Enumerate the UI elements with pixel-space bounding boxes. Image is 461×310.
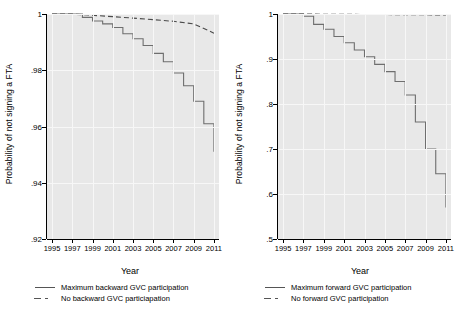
y-tick-0p8 [273, 104, 277, 105]
x-tick-2007 [405, 239, 406, 243]
x-tick-2005 [385, 239, 386, 243]
plot-area-left: .92.94.96.981199519971999200120032005200… [47, 14, 219, 239]
legend-item-dashed-left: No backward GVC particiapation [34, 293, 189, 304]
x-tick-label-1997: 1997 [64, 244, 81, 253]
legend-item-solid-left: Maximum backward GVC participation [34, 282, 189, 293]
y-tick-label-1: 1 [38, 10, 42, 19]
gridline-horizontal-1 [47, 14, 219, 15]
legend-label-dashed-left: No backward GVC particiapation [61, 293, 170, 304]
y-tick-label-0p92: .92 [31, 235, 42, 244]
x-tick-label-2011: 2011 [206, 244, 222, 253]
gridline-horizontal-0p94 [47, 183, 219, 184]
y-axis-line [277, 14, 278, 239]
y-tick-0p96 [42, 127, 46, 128]
legend-label-solid-right: Maximum forward GVC participation [291, 282, 411, 293]
legend-key-solid-icon [264, 284, 286, 291]
figure-two-panel-survival-chart: Probability of not signing a FTA .92.94.… [0, 0, 461, 310]
legend-item-dashed-right: No forward GVC participation [264, 293, 411, 304]
x-tick-label-2003: 2003 [125, 244, 142, 253]
gridline-horizontal-0p8 [278, 104, 451, 105]
x-tick-label-1999: 1999 [315, 244, 332, 253]
gridline-horizontal-0p6 [278, 194, 451, 195]
legend-right: Maximum forward GVC participation No for… [264, 282, 411, 304]
y-tick-0p94 [42, 183, 46, 184]
gridline-vertical-1997 [303, 14, 304, 239]
y-tick-label-0p98: .98 [31, 66, 42, 75]
x-tick-2003 [133, 239, 134, 243]
x-tick-2001 [344, 239, 345, 243]
x-tick-label-1997: 1997 [295, 244, 312, 253]
x-tick-label-2009: 2009 [417, 244, 434, 253]
y-tick-0p6 [273, 194, 277, 195]
x-tick-2009 [194, 239, 195, 243]
legend-left: Maximum backward GVC participation No ba… [34, 282, 189, 304]
legend-key-dashed-icon [264, 295, 286, 302]
x-tick-label-2003: 2003 [356, 244, 373, 253]
y-tick-label-0p96: .96 [31, 122, 42, 131]
y-tick-0p5 [273, 239, 277, 240]
x-tick-label-2011: 2011 [438, 244, 454, 253]
x-tick-2007 [173, 239, 174, 243]
x-tick-label-1995: 1995 [44, 244, 61, 253]
legend-key-dashed-icon [34, 295, 56, 302]
y-tick-label-0p6: .6 [266, 190, 273, 199]
panel-forward-gvc: Probability of not signing a FTA .5.6.7.… [230, 0, 461, 310]
x-tick-label-2009: 2009 [185, 244, 202, 253]
y-tick-1 [273, 14, 277, 15]
x-tick-1999 [324, 239, 325, 243]
y-axis-line [46, 14, 47, 239]
y-tick-label-0p94: .94 [31, 178, 42, 187]
y-tick-label-1: 1 [269, 10, 273, 19]
x-tick-2011 [214, 239, 215, 243]
gridline-vertical-2001 [344, 14, 345, 239]
gridline-horizontal-0p9 [278, 59, 451, 60]
x-tick-1997 [303, 239, 304, 243]
x-tick-label-2007: 2007 [165, 244, 182, 253]
x-tick-label-1995: 1995 [275, 244, 292, 253]
gridline-vertical-2007 [405, 14, 406, 239]
gridline-horizontal-0p96 [47, 127, 219, 128]
y-tick-label-0p8: .8 [266, 100, 273, 109]
y-tick-1 [42, 14, 46, 15]
gridline-vertical-1995 [283, 14, 284, 239]
legend-item-solid-right: Maximum forward GVC participation [264, 282, 411, 293]
y-tick-label-0p5: .5 [266, 235, 273, 244]
x-tick-label-2007: 2007 [397, 244, 414, 253]
y-tick-label-0p7: .7 [266, 145, 273, 154]
x-tick-1999 [93, 239, 94, 243]
legend-label-solid-left: Maximum backward GVC participation [61, 282, 189, 293]
x-tick-label-2005: 2005 [377, 244, 394, 253]
y-axis-title-left: Probability of not signing a FTA [2, 0, 16, 248]
y-axis-title-right: Probability of not signing a FTA [232, 0, 246, 248]
legend-key-solid-icon [34, 284, 56, 291]
y-tick-0p9 [273, 59, 277, 60]
gridline-vertical-2009 [426, 14, 427, 239]
x-tick-1995 [52, 239, 53, 243]
panel-backward-gvc: Probability of not signing a FTA .92.94.… [0, 0, 230, 310]
x-axis-title-left: Year [40, 266, 220, 276]
y-tick-label-0p9: .9 [266, 55, 273, 64]
x-tick-2011 [446, 239, 447, 243]
x-tick-2009 [426, 239, 427, 243]
plot-area-right: .5.6.7.8.9119951997199920012003200520072… [278, 14, 451, 239]
y-tick-0p98 [42, 70, 46, 71]
x-tick-2005 [153, 239, 154, 243]
x-tick-label-2001: 2001 [104, 244, 121, 253]
x-axis-title-right: Year [270, 266, 450, 276]
gridline-vertical-2005 [385, 14, 386, 239]
y-tick-0p92 [42, 239, 46, 240]
x-tick-label-1999: 1999 [84, 244, 101, 253]
gridline-horizontal-0p98 [47, 70, 219, 71]
y-tick-0p7 [273, 149, 277, 150]
gridline-vertical-1999 [324, 14, 325, 239]
gridline-vertical-2003 [365, 14, 366, 239]
x-tick-label-2001: 2001 [336, 244, 353, 253]
gridline-horizontal-1 [278, 14, 451, 15]
gridline-vertical-2011 [446, 14, 447, 239]
x-tick-1997 [72, 239, 73, 243]
x-tick-2001 [113, 239, 114, 243]
legend-label-dashed-right: No forward GVC participation [291, 293, 389, 304]
x-tick-label-2005: 2005 [145, 244, 162, 253]
x-tick-2003 [365, 239, 366, 243]
x-tick-1995 [283, 239, 284, 243]
